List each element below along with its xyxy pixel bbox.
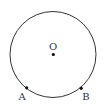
center-point-o bbox=[52, 53, 55, 56]
label-b: B bbox=[82, 91, 89, 102]
point-a bbox=[25, 86, 28, 89]
geometry-diagram: O A B bbox=[0, 0, 106, 112]
label-o: O bbox=[49, 41, 57, 52]
label-a: A bbox=[17, 91, 26, 102]
point-b bbox=[80, 87, 83, 90]
